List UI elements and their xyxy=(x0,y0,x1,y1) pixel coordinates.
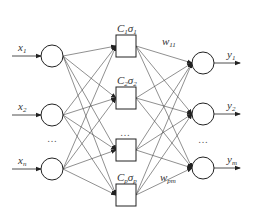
hidden-node-3 xyxy=(116,139,136,161)
hidden-label-4: Cpσp xyxy=(117,171,137,185)
input-node-1 xyxy=(41,45,63,67)
output-node-3 xyxy=(192,157,214,179)
input-node-2 xyxy=(41,104,63,126)
output-ellipsis: … xyxy=(198,134,208,145)
input-label-3: xn xyxy=(17,154,27,168)
hidden-label-1: C1σ1 xyxy=(117,22,137,36)
input-label-2: x2 xyxy=(17,100,27,114)
hidden-node-1 xyxy=(116,35,136,57)
output-node-2 xyxy=(192,103,214,125)
output-label-2: y2 xyxy=(226,99,236,113)
input-node-3 xyxy=(41,158,63,180)
hidden-node-2 xyxy=(116,87,136,109)
input-ellipsis: … xyxy=(47,133,57,144)
input-label-1: x1 xyxy=(17,41,26,55)
weight-label-w11: w11 xyxy=(162,35,176,49)
hidden-ellipsis: … xyxy=(120,127,130,138)
output-label-3: ym xyxy=(226,153,237,167)
weight-label-wpm: wpm xyxy=(160,171,176,185)
hidden-node-4 xyxy=(116,184,136,206)
hidden-label-2: C2σ2 xyxy=(117,74,137,88)
output-label-1: y1 xyxy=(226,48,235,62)
neural-network-diagram: x1x2xn…C1σ1C2σ2…Cpσpy1y2ym…w11wpm xyxy=(0,0,253,215)
output-node-1 xyxy=(192,52,214,74)
